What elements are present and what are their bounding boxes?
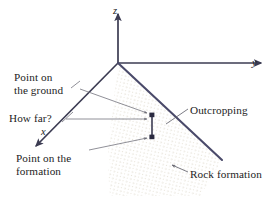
rock-formation-diagram: z y x Point on the ground How far? Point… bbox=[0, 0, 275, 201]
label-how-far: How far? bbox=[9, 112, 52, 125]
y-axis-label: y bbox=[252, 57, 257, 68]
label-point-on-formation: Point on the formation bbox=[16, 152, 71, 177]
label-point-on-ground: Point on the ground bbox=[14, 71, 63, 96]
label-outcropping: Outcropping bbox=[190, 104, 248, 117]
label-rock-formation: Rock formation bbox=[190, 168, 262, 181]
z-axis-label: z bbox=[113, 5, 117, 16]
x-axis-label: x bbox=[41, 126, 46, 137]
